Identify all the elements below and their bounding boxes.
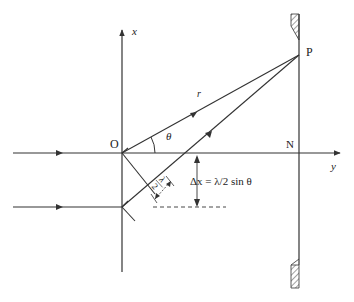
angle-label: θ <box>166 130 172 142</box>
angle-arc <box>151 137 155 153</box>
lower-incident-ray <box>13 204 122 210</box>
wavefronts <box>122 148 155 221</box>
y-axis-label: y <box>330 160 336 172</box>
x-axis-label: x <box>131 25 137 37</box>
incident-ray-arrow-icon <box>56 150 63 156</box>
diffraction-diagram: x y r θ O P N <box>0 0 354 302</box>
radius-label: r <box>197 88 201 99</box>
origin-label: O <box>110 137 119 151</box>
ray-r <box>122 55 299 153</box>
delta-x-label: Δx = λ/2 sin θ <box>190 175 252 187</box>
point-p-label: P <box>306 45 313 59</box>
y-axis <box>13 150 340 156</box>
point-n-label: N <box>286 138 294 150</box>
